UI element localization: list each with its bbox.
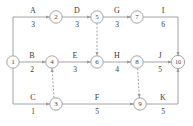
node-label-10: 10 bbox=[175, 59, 181, 65]
activity-duration-G: 3 bbox=[115, 20, 119, 29]
activity-label-J: J bbox=[158, 51, 161, 60]
node-label-7: 7 bbox=[135, 13, 139, 21]
edge-dummy-3-4 bbox=[52, 68, 54, 98]
activity-label-I: I bbox=[162, 6, 165, 15]
activity-duration-D: 3 bbox=[75, 20, 79, 29]
activity-duration-J: 5 bbox=[158, 65, 162, 74]
activity-label-D: D bbox=[74, 6, 80, 15]
node-label-4: 4 bbox=[50, 58, 54, 66]
activity-duration-H: 4 bbox=[115, 65, 119, 74]
node-label-5: 5 bbox=[95, 13, 99, 21]
activity-label-A: A bbox=[30, 6, 36, 15]
node-label-9: 9 bbox=[138, 100, 142, 108]
activity-label-C: C bbox=[30, 93, 35, 102]
activity-duration-E: 3 bbox=[73, 65, 77, 74]
activity-label-H: H bbox=[114, 51, 120, 60]
network-diagram-canvas: 1 2 3 4 5 6 7 8 9 10 A B C D E F G H I J… bbox=[0, 0, 193, 126]
edge-dummy-8-9 bbox=[138, 68, 140, 98]
activity-label-E: E bbox=[73, 51, 78, 60]
activity-label-F: F bbox=[95, 93, 100, 102]
node-label-8: 8 bbox=[135, 58, 139, 66]
activity-duration-B: 2 bbox=[30, 65, 34, 74]
node-label-6: 6 bbox=[95, 58, 99, 66]
node-label-2: 2 bbox=[54, 13, 58, 21]
activity-duration-F: 5 bbox=[95, 107, 99, 116]
activity-duration-C: 1 bbox=[31, 107, 35, 116]
activity-duration-K: 5 bbox=[161, 107, 165, 116]
node-label-3: 3 bbox=[54, 100, 58, 108]
node-label-1: 1 bbox=[11, 58, 15, 66]
activity-label-G: G bbox=[114, 6, 120, 15]
activity-label-B: B bbox=[29, 51, 34, 60]
activity-label-K: K bbox=[160, 93, 166, 102]
activity-duration-A: 3 bbox=[31, 20, 35, 29]
network-diagram: 1 2 3 4 5 6 7 8 9 10 A B C D E F G H I J… bbox=[0, 0, 193, 126]
activity-duration-I: 6 bbox=[161, 20, 165, 29]
